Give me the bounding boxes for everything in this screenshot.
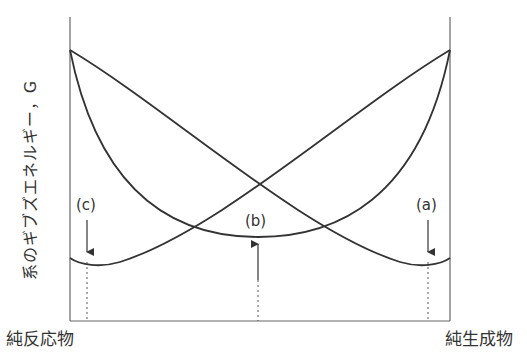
x-left-label: 純反応物 <box>6 325 74 350</box>
x-right-label: 純生成物 <box>445 325 513 350</box>
point-label-a: (a) <box>416 196 437 214</box>
curve-product-to-reactant <box>70 50 450 265</box>
point-label-c: (c) <box>76 196 96 214</box>
y-axis-label: 系のギブズエネルギー，G <box>14 60 44 300</box>
curve-reactant-to-product <box>70 50 450 265</box>
y-axis-label-text: 系のギブズエネルギー，G <box>17 80 41 280</box>
curve-mixture <box>70 50 450 237</box>
point-label-b: (b) <box>245 212 266 230</box>
gibbs-energy-diagram <box>0 0 527 360</box>
